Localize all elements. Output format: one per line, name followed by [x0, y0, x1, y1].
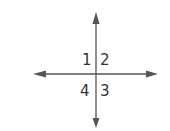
arrow-left-icon: [33, 71, 46, 78]
arrow-up-icon: [93, 12, 100, 24]
arrow-right-icon: [146, 71, 158, 78]
arrow-down-icon: [93, 118, 100, 128]
angle-label-3: 3: [100, 84, 110, 99]
angle-label-1: 1: [82, 53, 92, 68]
angle-label-2: 2: [100, 53, 110, 68]
angle-label-4: 4: [80, 84, 90, 99]
